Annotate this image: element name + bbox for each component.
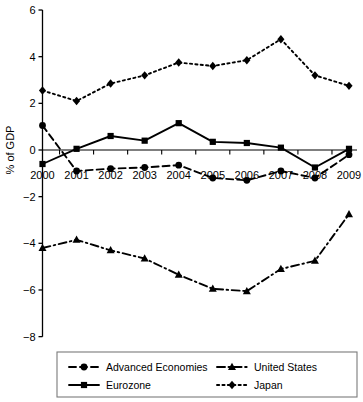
data-point-marker	[346, 151, 353, 158]
data-point-marker	[243, 177, 250, 184]
data-point-marker	[107, 165, 114, 172]
y-axis-title: % of GDP	[4, 126, 16, 175]
data-point-marker	[175, 162, 182, 169]
y-axis-tick-label: 4	[29, 51, 35, 63]
data-point-marker	[244, 140, 250, 146]
x-axis-tick-label: 2004	[166, 169, 190, 181]
x-axis-tick-label: 2000	[30, 169, 54, 181]
y-axis-title-text: % of GDP	[4, 126, 16, 175]
legend-marker-square-icon	[81, 382, 87, 388]
gdp-line-chart: 6420−2−4−6−8 200020012002200320042005200…	[0, 0, 363, 402]
data-point-marker	[312, 175, 319, 182]
legend-label: Japan	[254, 379, 283, 391]
x-axis-tick-label: 2009	[337, 169, 361, 181]
legend-label: United States	[254, 361, 317, 373]
data-point-marker	[108, 133, 114, 139]
y-axis-tick-label: 6	[29, 4, 35, 16]
data-point-marker	[312, 164, 318, 170]
legend-marker-circle-icon	[81, 364, 88, 371]
y-axis-tick-label: 0	[29, 144, 35, 156]
y-axis-tick-label: −2	[23, 191, 36, 203]
data-point-marker	[346, 146, 352, 152]
data-point-marker	[142, 138, 148, 144]
y-axis-tick-label: 2	[29, 97, 35, 109]
y-axis-tick-label: −4	[23, 237, 36, 249]
y-axis-tick-label: −6	[23, 284, 36, 296]
data-point-marker	[209, 175, 216, 182]
legend-label: Advanced Economies	[106, 361, 208, 373]
legend-label: Eurozone	[106, 379, 151, 391]
data-point-marker	[73, 146, 79, 152]
data-point-marker	[210, 139, 216, 145]
data-point-marker	[39, 122, 46, 129]
data-point-marker	[176, 120, 182, 126]
chart-container: 6420−2−4−6−8 200020012002200320042005200…	[0, 0, 363, 402]
data-point-marker	[277, 168, 284, 175]
data-point-marker	[73, 168, 80, 175]
chart-background	[0, 0, 363, 402]
y-axis-tick-label: −8	[23, 331, 36, 343]
data-point-marker	[278, 145, 284, 151]
data-point-marker	[141, 164, 148, 171]
data-point-marker	[39, 161, 45, 167]
